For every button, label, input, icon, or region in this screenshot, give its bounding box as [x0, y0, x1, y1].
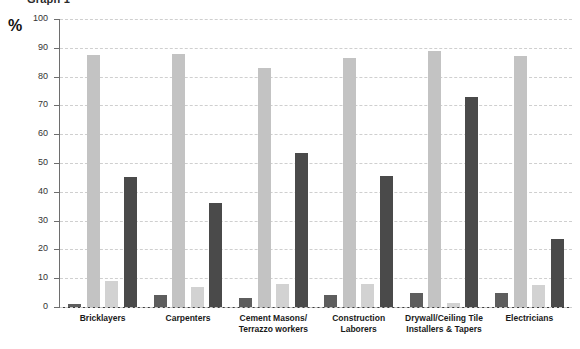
y-tick-label: 10 [18, 273, 48, 282]
bar [410, 293, 423, 307]
x-axis-label: Electricians [474, 313, 580, 324]
y-tick-label: 0 [18, 302, 48, 311]
bar [124, 177, 137, 307]
y-tick-label: 70 [18, 100, 48, 109]
bar-group [324, 19, 393, 307]
gridline [60, 307, 572, 308]
bar-group [154, 19, 223, 307]
bar [258, 68, 271, 307]
y-tick-label: 50 [18, 158, 48, 167]
bar [380, 176, 393, 307]
bar [68, 304, 81, 307]
y-tick-label: 90 [18, 43, 48, 52]
bar [465, 97, 478, 307]
y-tick-label: 60 [18, 129, 48, 138]
bar [343, 58, 356, 307]
bar [324, 295, 337, 307]
bar [295, 153, 308, 307]
bar [551, 239, 564, 307]
y-tick-label: 40 [18, 187, 48, 196]
bar [209, 203, 222, 307]
plot-area [60, 19, 572, 307]
bar-group [68, 19, 137, 307]
bar-group [495, 19, 564, 307]
bar [495, 293, 508, 307]
y-tick-label: 80 [18, 72, 48, 81]
bar [154, 295, 167, 307]
bar [514, 56, 527, 307]
bar [361, 284, 374, 307]
y-tick-label: 30 [18, 216, 48, 225]
bar [447, 303, 460, 307]
y-tick-label: 100 [18, 14, 48, 23]
bar [428, 51, 441, 307]
bar [276, 284, 289, 307]
bar-group [410, 19, 479, 307]
y-tick-label: 20 [18, 244, 48, 253]
bar [239, 298, 252, 307]
chart-title: Graph 1 [27, 0, 70, 5]
bar [532, 285, 545, 307]
bar [191, 287, 204, 307]
bar [87, 55, 100, 307]
bar [172, 54, 185, 307]
bar [105, 281, 118, 307]
bar-group [239, 19, 308, 307]
